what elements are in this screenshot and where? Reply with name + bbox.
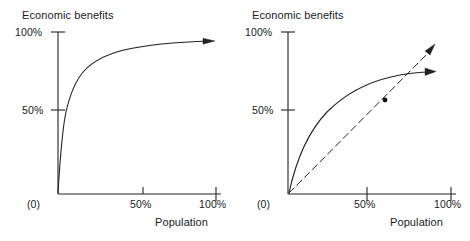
left-benefits-curve [58,41,210,193]
right-chart-title: Economic benefits [252,9,344,21]
left-x-axis-label: Population [155,216,208,228]
right-x-axis-label: Population [390,216,443,228]
right-y-tick-label-100: 100% [245,26,272,38]
left-y-tick-label-100: 100% [15,26,42,38]
left-chart-title: Economic benefits [22,9,114,21]
left-chart-panel: Economic benefits 100% 50% (0) 50% 100% … [0,0,235,241]
right-x-tick-label-50: 50% [354,198,375,210]
right-crossover-dot [383,98,388,103]
figure-canvas: Economic benefits 100% 50% (0) 50% 100% … [0,0,470,241]
right-y-tick-label-50: 50% [252,104,273,116]
left-y-tick-label-50: 50% [22,104,43,116]
right-diminishing-curve [289,72,433,193]
left-curve-arrowhead [203,38,215,44]
right-linear-line [289,49,432,193]
right-curve-arrowhead [425,68,436,76]
right-linear-arrowhead [425,44,435,55]
left-x-tick-label-100: 100% [199,198,226,210]
left-x-origin-label: (0) [27,198,40,210]
right-x-origin-label: (0) [257,198,270,210]
right-x-tick-label-100: 100% [434,198,461,210]
left-x-tick-label-50: 50% [130,198,151,210]
right-chart-panel: Economic benefits 100% 50% (0) 50% 100% … [235,0,470,241]
